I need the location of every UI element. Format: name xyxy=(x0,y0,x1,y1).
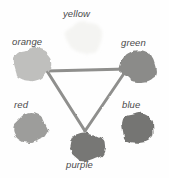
blob-blue[interactable] xyxy=(122,113,154,143)
color-blob-diagram: yelloworangegreenredbluepurple xyxy=(0,0,169,178)
blob-orange[interactable] xyxy=(13,48,52,81)
triangle-edges xyxy=(47,69,127,131)
blob-yellow[interactable] xyxy=(65,21,103,54)
diagram-canvas xyxy=(0,0,169,178)
blob-red[interactable] xyxy=(13,113,47,143)
blob-purple[interactable] xyxy=(69,133,105,162)
blob-label-orange: orange xyxy=(12,36,42,47)
blob-label-blue: blue xyxy=(122,99,140,110)
blob-label-green: green xyxy=(121,37,146,48)
blob-label-yellow: yellow xyxy=(63,8,90,19)
blob-label-red: red xyxy=(14,99,28,110)
edge-orange-green xyxy=(47,69,127,71)
blob-label-purple: purple xyxy=(66,159,93,170)
edge-green-purple xyxy=(85,69,127,131)
edge-purple-orange xyxy=(47,71,85,131)
blob-green[interactable] xyxy=(120,50,156,82)
